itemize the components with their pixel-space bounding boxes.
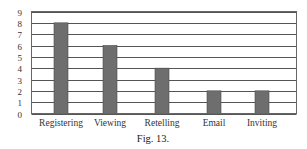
y-tick-label: 1 [18, 98, 23, 108]
bar-email [207, 91, 221, 114]
y-tick-label: 0 [18, 110, 23, 120]
bar-registering [54, 23, 68, 114]
y-tick-label: 2 [18, 87, 23, 97]
x-category-label: Email [203, 118, 226, 128]
y-tick-label: 9 [18, 8, 23, 18]
bar-viewing [103, 46, 117, 114]
y-tick-label: 3 [18, 76, 23, 86]
y-tick-label: 5 [18, 53, 23, 63]
x-category-label: Viewing [94, 118, 126, 128]
figure-caption: Fig. 13. [137, 133, 169, 144]
x-category-label: Retelling [145, 118, 180, 128]
x-axis-labels: RegisteringViewingRetellingEmailInviting [39, 118, 277, 128]
bar-inviting [255, 91, 269, 114]
y-axis-ticks: 0123456789 [18, 8, 23, 120]
bar-retelling [155, 68, 169, 113]
y-tick-label: 8 [18, 19, 23, 29]
x-category-label: Registering [39, 118, 83, 128]
bar-chart: 0123456789 RegisteringViewingRetellingEm… [0, 0, 307, 149]
y-tick-label: 6 [18, 42, 23, 52]
x-category-label: Inviting [247, 118, 277, 128]
y-tick-label: 7 [18, 30, 23, 40]
y-tick-label: 4 [18, 64, 23, 74]
